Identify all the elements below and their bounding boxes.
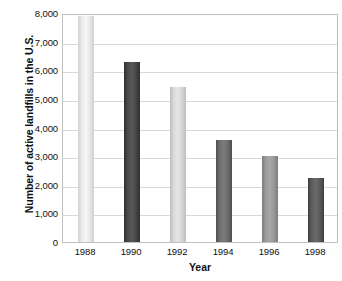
y-axis-tick-labels: 01,0002,0003,0004,0005,0006,0007,0008,00… — [6, 0, 58, 281]
y-axis-tick-label: 4,000 — [6, 124, 58, 134]
x-axis-tick-label: 1992 — [154, 246, 200, 258]
x-axis-tick-labels: 198819901992199419961998 — [62, 246, 338, 262]
x-axis-tick-label: 1988 — [62, 246, 108, 258]
bar-1988 — [78, 16, 94, 242]
y-axis-tick-label: 1,000 — [6, 209, 58, 219]
bar-chart: Number of active landfills in the U.S. 0… — [0, 0, 342, 281]
bar-1998 — [308, 178, 324, 242]
x-axis-tick-label: 1990 — [108, 246, 154, 258]
y-axis-tick-label: 7,000 — [6, 38, 58, 48]
bar-1990 — [124, 62, 140, 242]
y-axis-tick-label: 0 — [6, 238, 58, 248]
x-axis-tick-label: 1994 — [200, 246, 246, 258]
y-axis-tick-label: 5,000 — [6, 95, 58, 105]
bar-1992 — [170, 87, 186, 242]
x-axis-tick-label: 1998 — [292, 246, 338, 258]
x-axis-tick-label: 1996 — [246, 246, 292, 258]
bar-1996 — [262, 156, 278, 242]
plot-area — [62, 14, 338, 243]
bar-1994 — [216, 140, 232, 242]
x-axis-title: Year — [62, 261, 338, 273]
y-axis-tick-label: 6,000 — [6, 66, 58, 76]
bars-group — [63, 15, 337, 242]
y-axis-tick-label: 2,000 — [6, 181, 58, 191]
y-axis-tick-label: 8,000 — [6, 9, 58, 19]
y-axis-tick-label: 3,000 — [6, 152, 58, 162]
